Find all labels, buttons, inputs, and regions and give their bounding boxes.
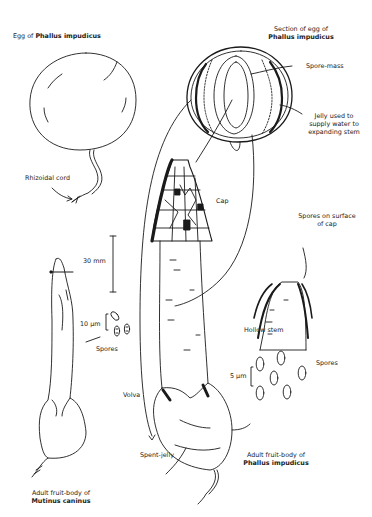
cap-drawing xyxy=(152,160,212,241)
hollow-stem-drawing xyxy=(254,282,312,350)
scale-bar-30mm xyxy=(110,236,116,292)
scale-bar-5um xyxy=(251,367,253,386)
volva-drawing xyxy=(154,383,233,504)
scale-30mm-label: 30 mm xyxy=(83,257,106,265)
hollow-stem-label: Hollow stem xyxy=(244,326,283,334)
spores-surface-pointer xyxy=(303,248,306,278)
spore-cluster-pointer xyxy=(232,424,250,430)
scale-bar-10um xyxy=(106,314,108,330)
spore-mass-label: Spore-mass xyxy=(306,62,344,70)
volva-label: Volva xyxy=(123,391,140,399)
rhizoidal-cord-label: Rhizoidal cord xyxy=(25,174,70,182)
scale-10um-label: 10 µm xyxy=(80,320,100,328)
phallus-caption-species: Phallus impudicus xyxy=(243,459,308,467)
section-species: Phallus impudicus xyxy=(268,33,333,41)
mutinus-drawing xyxy=(32,258,86,477)
section-title: Section of egg of Phallus impudicus xyxy=(262,25,340,41)
rhizoidal-cord-pointer xyxy=(52,188,72,199)
guide-curve-left xyxy=(140,100,191,436)
phallus-spores-label: Spores xyxy=(316,359,338,367)
stem-drawing xyxy=(160,241,209,388)
illustration xyxy=(0,0,372,517)
mutinus-spores-label: Spores xyxy=(96,345,118,353)
spent-jelly-label: Spent-jelly xyxy=(140,451,174,459)
mutinus-caption: Adult fruit-body of Mutinus caninus xyxy=(26,489,96,505)
mutinus-caption-species: Mutinus caninus xyxy=(31,497,90,505)
spores-pointer-mutinus xyxy=(86,337,100,342)
phallus-caption: Adult fruit-body of Phallus impudicus xyxy=(236,451,316,467)
jelly-label: Jelly used to supply water to expanding … xyxy=(296,112,372,136)
egg-section-drawing xyxy=(187,47,292,151)
phallus-spores-drawing xyxy=(251,351,306,400)
cap-label: Cap xyxy=(216,197,228,205)
spores-on-surface-label: Spores on surface of cap xyxy=(292,212,362,228)
egg-species: Phallus impudicus xyxy=(35,32,100,40)
scale-5um-label: 5 µm xyxy=(230,372,246,380)
egg-title: Egg of Phallus impudicus xyxy=(13,32,101,40)
